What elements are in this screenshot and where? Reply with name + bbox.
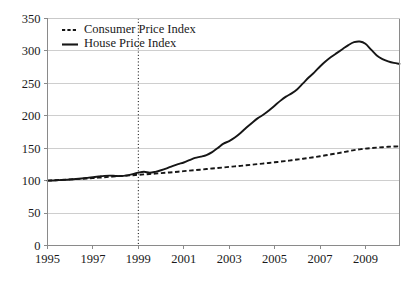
chart-canvas: 050100150200250300350 199519971999200120… [0, 0, 418, 293]
x-tick-label-1995: 1995 [35, 252, 60, 266]
x-tick-label-2003: 2003 [217, 252, 242, 266]
y-tick-label-350: 350 [22, 12, 41, 26]
x-tick-label-2007: 2007 [308, 252, 333, 266]
x-tick-label-2005: 2005 [262, 252, 287, 266]
x-tick-label-2009: 2009 [353, 252, 378, 266]
y-tick-label-150: 150 [22, 142, 41, 156]
legend-label-2: House Price Index [84, 36, 177, 50]
x-tick-label-1997: 1997 [80, 252, 105, 266]
x-tick-label-2001: 2001 [171, 252, 196, 266]
y-tick-label-200: 200 [22, 109, 41, 123]
price-index-line-chart: 050100150200250300350 199519971999200120… [0, 0, 418, 293]
y-tick-label-300: 300 [22, 44, 41, 58]
x-tick-label-1999: 1999 [126, 252, 151, 266]
y-tick-label-100: 100 [22, 174, 41, 188]
legend-label-1: Consumer Price Index [84, 22, 197, 36]
y-tick-label-50: 50 [28, 206, 41, 220]
y-tick-label-250: 250 [22, 77, 41, 91]
